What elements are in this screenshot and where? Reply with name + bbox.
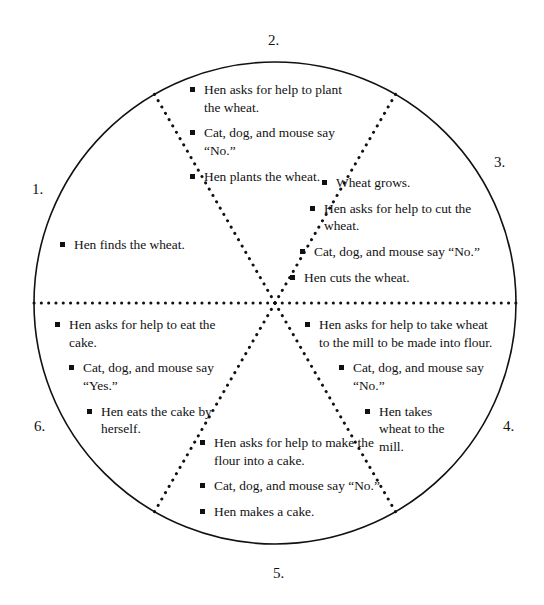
sector-label-4: 4. [503,419,514,434]
sector-content-1: Hen finds the wheat. [60,236,240,254]
bullet-list: Hen asks for help to plant the wheat. Ca… [190,81,360,185]
sector-label-6: 6. [34,419,45,434]
list-item: Hen asks for help to make the flour into… [200,434,380,469]
sector-label-2: 2. [268,33,279,48]
sector-content-5: Hen asks for help to make the flour into… [200,434,380,521]
list-item: Hen asks for help to eat the cake. [55,316,245,351]
list-item: Cat, dog, and mouse say “No.” [190,124,360,159]
list-item: Hen asks for help to plant the wheat. [190,81,360,116]
list-item: Cat, dog, and mouse say “No.” [339,359,503,394]
list-item: Hen eats the cake by herself. [87,403,241,438]
list-item: Cat, dog, and mouse say “Yes.” [69,359,245,394]
sector-content-3: Wheat grows. Hen asks for help to cut th… [300,174,480,286]
sector-content-6: Hen asks for help to eat the cake. Cat, … [55,316,245,438]
sector-content-2: Hen asks for help to plant the wheat. Ca… [190,81,360,185]
list-item: Wheat grows. [322,174,480,192]
sector-label-1: 1. [32,182,43,197]
list-item: Cat, dog, and mouse say “No.” [300,243,480,261]
list-item: Hen finds the wheat. [60,236,240,254]
list-item: Hen makes a cake. [200,503,380,521]
bullet-list: Hen asks for help to make the flour into… [200,434,380,521]
sector-label-3: 3. [494,155,505,170]
list-item: Hen asks for help to cut the wheat. [310,200,480,235]
bullet-list: Hen asks for help to eat the cake. Cat, … [55,316,245,438]
list-item: Hen asks for help to take wheat to the m… [305,316,495,351]
bullet-list: Hen finds the wheat. [60,236,240,254]
story-wheel-page: 1. 2. 3. 4. 5. 6. Hen finds the wheat. H… [0,0,544,605]
sector-label-5: 5. [273,566,284,581]
list-item: Hen cuts the wheat. [290,269,480,287]
list-item: Cat, dog, and mouse say “No.” [200,477,380,495]
bullet-list: Wheat grows. Hen asks for help to cut th… [300,174,480,286]
